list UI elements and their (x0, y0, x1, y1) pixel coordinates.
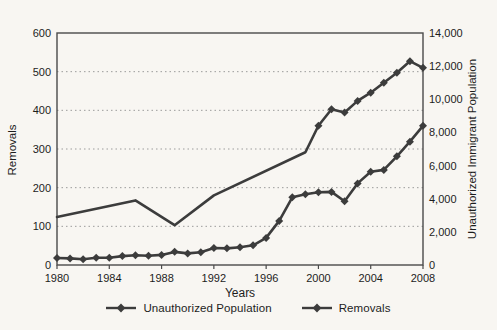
svg-text:100: 100 (33, 220, 51, 232)
svg-text:8,000: 8,000 (429, 126, 457, 138)
svg-text:1988: 1988 (149, 272, 173, 284)
svg-text:2008: 2008 (411, 272, 435, 284)
svg-text:200: 200 (33, 182, 51, 194)
legend: Unauthorized Population Removals (0, 302, 497, 314)
x-axis-title: Years (225, 286, 255, 300)
svg-text:0: 0 (429, 259, 435, 271)
svg-text:12,000: 12,000 (429, 60, 463, 72)
svg-text:2,000: 2,000 (429, 226, 457, 238)
legend-marker-removals (302, 303, 332, 313)
x-axis-tick-labels: 19801984198819921996200020042008 (45, 265, 435, 284)
svg-text:1984: 1984 (97, 272, 121, 284)
svg-text:600: 600 (33, 27, 51, 39)
chart-figure: 010020030040050060002,0004,0006,0008,000… (0, 0, 497, 330)
right-axis-tick-labels: 02,0004,0006,0008,00010,00012,00014,000 (429, 27, 463, 271)
svg-text:1980: 1980 (45, 272, 69, 284)
legend-label-removals: Removals (339, 302, 391, 314)
svg-text:500: 500 (33, 66, 51, 78)
svg-text:1996: 1996 (254, 272, 278, 284)
right-axis-title: Unauthorized Immigrant Population (466, 59, 478, 239)
line-chart-canvas: 010020030040050060002,0004,0006,0008,000… (0, 0, 497, 330)
svg-text:6,000: 6,000 (429, 160, 457, 172)
left-axis-tick-labels: 0100200300400500600 (33, 27, 51, 271)
svg-text:0: 0 (45, 259, 51, 271)
left-axis-title: Removals (6, 124, 18, 175)
svg-text:400: 400 (33, 104, 51, 116)
series-removals (53, 122, 427, 263)
legend-label-unauthorized-population: Unauthorized Population (143, 302, 271, 314)
svg-text:300: 300 (33, 143, 51, 155)
svg-text:4,000: 4,000 (429, 193, 457, 205)
series-unauthorized-population (57, 57, 427, 225)
svg-text:2000: 2000 (306, 272, 330, 284)
svg-text:2004: 2004 (358, 272, 382, 284)
svg-text:10,000: 10,000 (429, 93, 463, 105)
legend-item-removals: Removals (302, 302, 391, 314)
legend-item-unauthorized-population: Unauthorized Population (106, 302, 271, 314)
legend-marker-unauthorized-population (106, 303, 136, 313)
svg-text:14,000: 14,000 (429, 27, 463, 39)
svg-text:1992: 1992 (202, 272, 226, 284)
